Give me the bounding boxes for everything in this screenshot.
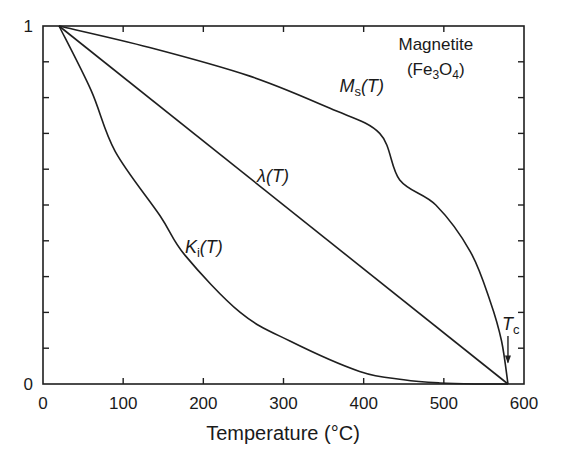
chart: 0100200300400500600 01 Ms(T)λ(T)Ki(T) Ma… <box>0 0 561 459</box>
x-tick-label: 100 <box>109 394 137 413</box>
curie-temp-label: Tc <box>502 314 520 337</box>
curve-label-kit: Ki(T) <box>185 237 223 260</box>
x-tick-label: 0 <box>38 394 47 413</box>
curve-t <box>59 26 508 384</box>
x-tick-label: 300 <box>269 394 297 413</box>
material-label: Magnetite <box>398 35 473 54</box>
y-tick-label: 1 <box>24 17 33 36</box>
formula-label: (Fe3O4) <box>407 60 465 82</box>
y-tick-label: 0 <box>24 375 33 394</box>
x-tick-labels: 0100200300400500600 <box>38 394 538 413</box>
curve-labels: Ms(T)λ(T)Ki(T) <box>185 76 384 260</box>
x-tick-label: 500 <box>430 394 458 413</box>
curve-label-t: λ(T) <box>256 166 289 186</box>
curve-label-mst: Ms(T) <box>340 76 384 99</box>
annotations: Magnetite(Fe3O4)Tc <box>398 35 519 364</box>
curves <box>59 26 508 384</box>
y-tick-labels: 01 <box>24 17 33 394</box>
x-tick-label: 200 <box>189 394 217 413</box>
x-axis-title: Temperature (°C) <box>206 422 360 444</box>
x-tick-label: 400 <box>349 394 377 413</box>
x-tick-label: 600 <box>510 394 538 413</box>
